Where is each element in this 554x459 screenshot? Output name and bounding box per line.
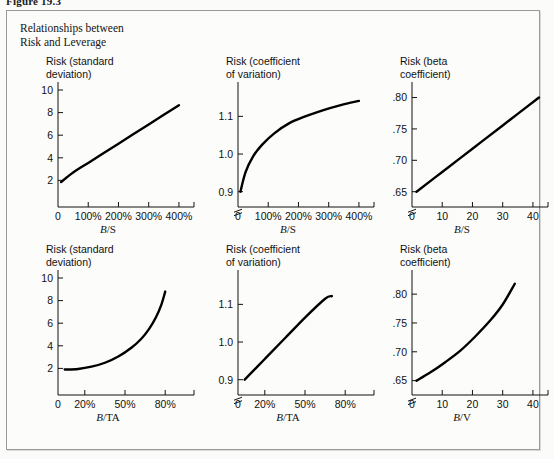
svg-text:0.9: 0.9 [218, 186, 233, 198]
chart-panel-6: Risk (beta coefficient) .65.70.75.800102… [372, 243, 552, 433]
svg-text:1.0: 1.0 [218, 336, 233, 348]
svg-text:8: 8 [47, 294, 53, 306]
xlabel-denominator-2: /S [287, 223, 296, 235]
svg-text:100%: 100% [75, 210, 102, 222]
chart-svg-1: 2468100100%200%300%400% [18, 55, 198, 245]
chart-plot-1: 2468100100%200%300%400% [18, 55, 198, 245]
xlabel-denominator-6: /V [460, 411, 471, 423]
chart-xlabel-2: B/S [198, 223, 378, 235]
xlabel-numerator-6: B [453, 411, 460, 423]
xlabel-denominator-4: /TA [103, 411, 120, 423]
chart-series-line-3 [417, 98, 539, 192]
svg-text:0: 0 [55, 398, 61, 410]
svg-text:50%: 50% [295, 398, 316, 410]
chart-svg-6: .65.70.75.80010203040 [372, 243, 552, 433]
svg-text:8: 8 [47, 106, 53, 118]
chart-series-line-2 [240, 101, 359, 192]
figure-caption-line1: Relationships between [20, 22, 124, 36]
svg-text:6: 6 [47, 317, 53, 329]
xlabel-numerator-4: B [96, 411, 103, 423]
svg-text:20%: 20% [74, 398, 95, 410]
xlabel-numerator-2: B [280, 223, 287, 235]
svg-text:50%: 50% [115, 398, 136, 410]
chart-plot-2: 0.91.01.10100%200%300%400% [198, 55, 378, 245]
svg-text:400%: 400% [346, 210, 373, 222]
svg-text:1.0: 1.0 [218, 148, 233, 160]
svg-text:1.1: 1.1 [218, 298, 233, 310]
svg-text:.80: .80 [392, 91, 407, 103]
xlabel-denominator-5: /TA [283, 411, 300, 423]
chart-plot-6: .65.70.75.80010203040 [372, 243, 552, 433]
chart-plot-3: .65.70.75.80010203040 [372, 55, 552, 245]
svg-text:.75: .75 [392, 317, 407, 329]
chart-panel-5: Risk (coefficient of variation) 0.91.01.… [198, 243, 378, 433]
xlabel-numerator-1: B [100, 223, 107, 235]
svg-text:30: 30 [497, 210, 509, 222]
svg-text:.70: .70 [392, 346, 407, 358]
svg-text:4: 4 [47, 152, 53, 164]
svg-text:6: 6 [47, 129, 53, 141]
svg-text:10: 10 [436, 210, 448, 222]
svg-text:.80: .80 [392, 288, 407, 300]
svg-text:10: 10 [41, 84, 53, 96]
svg-text:20%: 20% [254, 398, 275, 410]
figure-caption: Relationships between Risk and Leverage [20, 22, 124, 49]
svg-text:10: 10 [436, 398, 448, 410]
chart-series-line-5 [245, 296, 332, 380]
svg-text:1.1: 1.1 [218, 110, 233, 122]
chart-panel-2: Risk (coefficient of variation) 0.91.01.… [198, 55, 378, 245]
xlabel-denominator-1: /S [107, 223, 116, 235]
svg-text:20: 20 [467, 398, 479, 410]
figure-number: Figure 19.3 [6, 0, 61, 7]
chart-series-line-1 [61, 105, 179, 182]
svg-text:.65: .65 [392, 374, 407, 386]
svg-text:.75: .75 [392, 123, 407, 135]
svg-text:80%: 80% [335, 398, 356, 410]
svg-text:80%: 80% [155, 398, 176, 410]
svg-text:4: 4 [47, 340, 53, 352]
svg-text:0: 0 [235, 398, 241, 410]
xlabel-denominator-3: /S [461, 223, 470, 235]
chart-svg-3: .65.70.75.80010203040 [372, 55, 552, 245]
svg-text:0.9: 0.9 [218, 374, 233, 386]
svg-text:0: 0 [55, 210, 61, 222]
chart-panel-3: Risk (beta coefficient) .65.70.75.800102… [372, 55, 552, 245]
chart-series-line-6 [417, 284, 515, 381]
chart-xlabel-1: B/S [18, 223, 198, 235]
svg-text:300%: 300% [135, 210, 162, 222]
chart-xlabel-6: B/V [372, 411, 552, 423]
svg-text:0: 0 [409, 398, 415, 410]
svg-text:2: 2 [47, 362, 53, 374]
chart-panel-1: Risk (standard deviation) 2468100100%200… [18, 55, 198, 245]
svg-text:200%: 200% [285, 210, 312, 222]
xlabel-numerator-3: B [454, 223, 461, 235]
chart-plot-4: 246810020%50%80% [18, 243, 198, 433]
svg-text:40: 40 [527, 210, 539, 222]
chart-xlabel-5: B/TA [198, 411, 378, 423]
svg-text:.70: .70 [392, 154, 407, 166]
svg-text:.65: .65 [392, 186, 407, 198]
svg-text:0: 0 [409, 210, 415, 222]
chart-svg-2: 0.91.01.10100%200%300%400% [198, 55, 378, 245]
chart-svg-5: 0.91.01.1020%50%80% [198, 243, 378, 433]
chart-svg-4: 246810020%50%80% [18, 243, 198, 433]
figure-root: Figure 19.3 Relationships between Risk a… [0, 0, 554, 459]
chart-panel-4: Risk (standard deviation) 246810020%50%8… [18, 243, 198, 433]
svg-text:100%: 100% [255, 210, 282, 222]
svg-text:10: 10 [41, 272, 53, 284]
svg-text:30: 30 [497, 398, 509, 410]
chart-plot-5: 0.91.01.1020%50%80% [198, 243, 378, 433]
figure-caption-line2: Risk and Leverage [20, 36, 124, 50]
svg-text:0: 0 [235, 210, 241, 222]
svg-text:40: 40 [527, 398, 539, 410]
svg-text:400%: 400% [166, 210, 193, 222]
svg-text:300%: 300% [315, 210, 342, 222]
svg-text:20: 20 [467, 210, 479, 222]
chart-xlabel-3: B/S [372, 223, 552, 235]
chart-series-line-4 [65, 292, 166, 370]
svg-text:200%: 200% [105, 210, 132, 222]
chart-xlabel-4: B/TA [18, 411, 198, 423]
xlabel-numerator-5: B [276, 411, 283, 423]
svg-text:2: 2 [47, 174, 53, 186]
